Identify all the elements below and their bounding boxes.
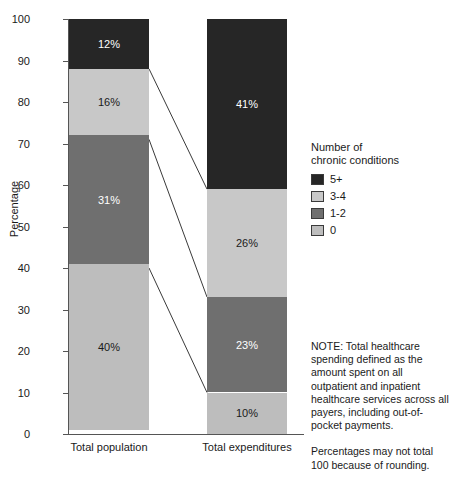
legend-swatch bbox=[311, 225, 324, 236]
bar-segment: 31% bbox=[69, 135, 149, 264]
bar-segment-label: 10% bbox=[236, 407, 258, 419]
bar-segment: 41% bbox=[207, 19, 287, 189]
legend-label: 0 bbox=[330, 225, 336, 236]
bar-total-population: 12%16%31%40% bbox=[69, 19, 149, 434]
legend: Number of chronic conditions 5+3-41-20 bbox=[311, 141, 451, 240]
chart-root: 0102030405060708090100 Percentage 12%16%… bbox=[0, 0, 456, 479]
connector-line bbox=[149, 69, 207, 189]
legend-swatch bbox=[311, 191, 324, 202]
bar-segment: 26% bbox=[207, 189, 287, 297]
bar-segment: 16% bbox=[69, 69, 149, 135]
legend-swatch bbox=[311, 174, 324, 185]
bar-segment: 40% bbox=[69, 264, 149, 430]
bar-segment-label: 41% bbox=[236, 98, 258, 110]
bar-segment-label: 23% bbox=[236, 339, 258, 351]
x-axis-label: Total population bbox=[49, 441, 169, 453]
bar-segment: 10% bbox=[207, 393, 287, 435]
bar-segment: 23% bbox=[207, 297, 287, 392]
legend-title-line-1: Number of bbox=[311, 141, 451, 154]
notes-block: NOTE: Total healthcare spending defined … bbox=[311, 340, 451, 472]
bar-segment-label: 40% bbox=[98, 341, 120, 353]
legend-label: 1-2 bbox=[330, 208, 346, 219]
legend-title-line-2: chronic conditions bbox=[311, 154, 451, 167]
legend-item: 5+ bbox=[311, 172, 451, 187]
legend-item: 1-2 bbox=[311, 206, 451, 221]
legend-label: 5+ bbox=[330, 174, 343, 185]
rounding-note-text: Percentages may not total 100 because of… bbox=[311, 445, 451, 471]
x-axis-label: Total expenditures bbox=[187, 441, 307, 453]
bar-segment: 12% bbox=[69, 19, 149, 69]
bar-segment-label: 16% bbox=[98, 96, 120, 108]
legend-item: 0 bbox=[311, 223, 451, 238]
connector-line bbox=[149, 268, 207, 393]
bar-segment-label: 26% bbox=[236, 237, 258, 249]
bar-total-expenditures: 41%26%23%10% bbox=[207, 19, 287, 434]
connector-line bbox=[149, 139, 207, 297]
legend-title: Number of chronic conditions bbox=[311, 141, 451, 167]
legend-items: 5+3-41-20 bbox=[311, 172, 451, 238]
bar-segment-label: 31% bbox=[98, 194, 120, 206]
legend-swatch bbox=[311, 208, 324, 219]
bar-segment-label: 12% bbox=[98, 38, 120, 50]
legend-label: 3-4 bbox=[330, 191, 346, 202]
note-text: NOTE: Total healthcare spending defined … bbox=[311, 340, 451, 432]
legend-item: 3-4 bbox=[311, 189, 451, 204]
